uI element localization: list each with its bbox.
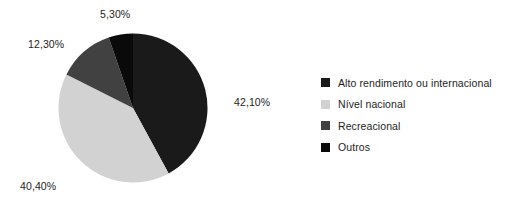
legend-item-label: Alto rendimento ou internacional: [338, 78, 492, 89]
pie-chart-figure: 5,30% 12,30% 42,10% 40,40% Alto rendimen…: [0, 0, 530, 213]
slice-label-recreacional: 12,30%: [28, 39, 64, 50]
legend-swatch-icon: [321, 121, 330, 130]
slice-label-nivel-nacional: 40,40%: [20, 181, 56, 192]
pie-svg: [58, 33, 208, 183]
legend-item-label: Recreacional: [338, 121, 400, 132]
legend-item-label: Outros: [338, 142, 370, 153]
legend-swatch-icon: [321, 143, 330, 152]
pie-slice-group: [59, 34, 208, 183]
slice-label-alto-rendimento: 42,10%: [234, 97, 270, 108]
legend-swatch-icon: [321, 100, 330, 109]
legend-item-label: Nível nacional: [338, 99, 405, 110]
pie-graphic: [58, 33, 208, 183]
legend-swatch-icon: [321, 78, 330, 87]
legend-item-nivel-nacional: Nível nacional: [321, 94, 526, 116]
legend-item-recreacional: Recreacional: [321, 115, 526, 137]
legend-item-alto-rendimento: Alto rendimento ou internacional: [321, 72, 526, 94]
legend-item-outros: Outros: [321, 137, 526, 159]
chart-legend: Alto rendimento ou internacional Nível n…: [321, 72, 526, 158]
slice-label-outros: 5,30%: [100, 9, 130, 20]
